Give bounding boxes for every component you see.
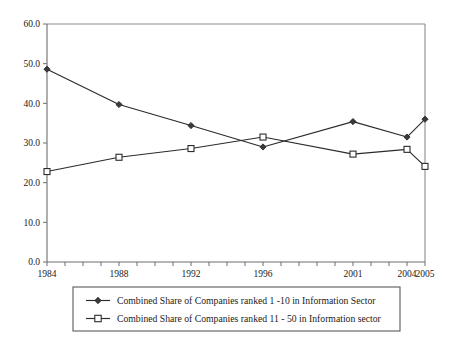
y-axis-tick-label: 30.0: [23, 138, 40, 148]
x-axis-tick-label: 2001: [344, 269, 363, 279]
legend-entry-series-2[interactable]: Combined Share of Companies ranked 11 - …: [86, 313, 382, 324]
legend-label-series-2: Combined Share of Companies ranked 11 - …: [117, 313, 382, 324]
data-point-square: [44, 169, 50, 175]
x-axis-tick-label: 1988: [110, 269, 129, 279]
y-axis-ticks: [43, 24, 47, 262]
data-point-square: [422, 163, 428, 169]
y-axis-tick-label: 50.0: [23, 59, 40, 69]
data-point-diamond: [188, 122, 194, 128]
series-2: [44, 134, 428, 175]
x-axis-tick-label: 1996: [254, 269, 273, 279]
y-axis-tick-label: 40.0: [23, 99, 40, 109]
chart-svg: 0.010.020.030.040.050.060.0 198419881992…: [0, 0, 460, 338]
x-axis-tick-labels: 1984198819921996200120042005: [38, 269, 435, 279]
y-axis-tick-label: 0.0: [28, 257, 40, 267]
x-axis-tick-label: 1992: [182, 269, 201, 279]
y-axis-tick-label: 60.0: [23, 19, 40, 29]
line-chart: 0.010.020.030.040.050.060.0 198419881992…: [0, 0, 460, 338]
x-axis-tick-label: 2004: [398, 269, 417, 279]
data-point-diamond: [44, 66, 50, 72]
x-axis-tick-label: 1984: [38, 269, 57, 279]
data-point-square: [404, 146, 410, 152]
data-point-square: [116, 154, 122, 160]
legend-box: [73, 287, 400, 331]
x-axis-tick-label: 2005: [416, 269, 435, 279]
data-series-layer: [44, 66, 428, 174]
y-axis-tick-label: 10.0: [23, 218, 40, 228]
plot-frame: [47, 24, 425, 262]
y-axis-tick-label: 20.0: [23, 178, 40, 188]
legend-entry-series-1[interactable]: Combined Share of Companies ranked 1 -10…: [86, 295, 376, 306]
legend-marker-square: [95, 315, 101, 321]
legend: Combined Share of Companies ranked 1 -10…: [73, 287, 400, 331]
x-axis-ticks: [47, 262, 425, 266]
data-point-square: [350, 151, 356, 157]
data-point-square: [188, 146, 194, 152]
data-point-square: [260, 134, 266, 140]
y-axis-tick-labels: 0.010.020.030.040.050.060.0: [23, 19, 40, 267]
series-line-2: [47, 137, 425, 172]
data-point-diamond: [260, 144, 266, 150]
series-1: [44, 66, 428, 150]
data-point-diamond: [350, 118, 356, 124]
data-point-diamond: [116, 101, 122, 107]
legend-label-series-1: Combined Share of Companies ranked 1 -10…: [117, 295, 376, 306]
series-line-1: [47, 69, 425, 147]
